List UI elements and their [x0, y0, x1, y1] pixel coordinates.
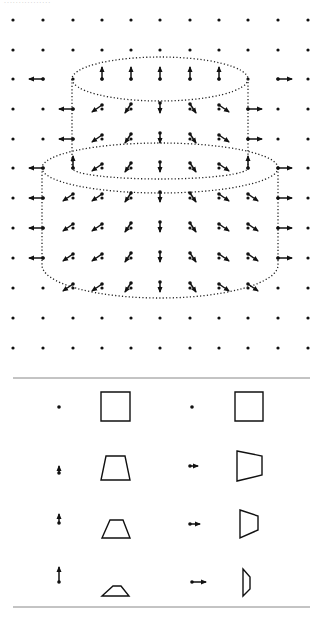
grid-dot	[129, 286, 132, 289]
vertical-deformed-square	[102, 520, 130, 538]
grid-dot	[100, 107, 103, 110]
grid-dot	[11, 196, 14, 199]
grid-dot	[306, 226, 309, 229]
cake-vector-field-figure: ................	[0, 0, 328, 627]
legend-panel	[13, 378, 310, 607]
figure-canvas	[0, 0, 328, 627]
grid-dot	[246, 316, 249, 319]
grid-dot	[306, 286, 309, 289]
grid-dot	[100, 48, 103, 51]
grid-dot	[306, 196, 309, 199]
grid-dot	[276, 286, 279, 289]
grid-dot	[129, 256, 132, 259]
grid-dot	[129, 346, 132, 349]
grid-dot	[158, 346, 161, 349]
grid-dot	[188, 316, 191, 319]
grid-dot	[129, 18, 132, 21]
grid-dot	[188, 166, 191, 169]
grid-dot	[188, 107, 191, 110]
grid-dot	[217, 196, 220, 199]
grid-dot	[217, 346, 220, 349]
grid-dot	[276, 18, 279, 21]
grid-dot	[129, 48, 132, 51]
grid-dot	[41, 107, 44, 110]
grid-dot	[217, 316, 220, 319]
grid-dot	[217, 18, 220, 21]
grid-dot	[306, 18, 309, 21]
grid-dot	[217, 48, 220, 51]
grid-dot	[246, 48, 249, 51]
grid-dot	[276, 346, 279, 349]
vertical-deformed-square	[102, 586, 129, 596]
grid-dot	[11, 137, 14, 140]
vertical-deformed-square	[101, 392, 130, 421]
grid-dot	[11, 286, 14, 289]
grid-dot	[276, 316, 279, 319]
grid-dot	[100, 137, 103, 140]
grid-dot	[188, 346, 191, 349]
grid-dot	[41, 346, 44, 349]
grid-dot	[217, 137, 220, 140]
grid-dot	[276, 48, 279, 51]
grid-dot	[188, 256, 191, 259]
vertical-strain-arrow-base-dot	[57, 405, 61, 409]
grid-dot	[41, 137, 44, 140]
grid-dot	[11, 166, 14, 169]
grid-dot	[188, 286, 191, 289]
grid-dot	[41, 286, 44, 289]
vector-arrows	[29, 67, 292, 292]
grid-dot	[217, 286, 220, 289]
grid-dot	[188, 137, 191, 140]
legend-row-3	[57, 510, 258, 538]
horizontal-deformed-square	[243, 569, 250, 596]
grid-dot	[129, 196, 132, 199]
grid-dot	[217, 107, 220, 110]
grid-dot	[71, 256, 74, 259]
grid-dot	[100, 196, 103, 199]
grid-dot	[129, 137, 132, 140]
grid-dot	[129, 316, 132, 319]
grid-dot	[11, 256, 14, 259]
grid-dot	[41, 316, 44, 319]
horizontal-deformed-square	[237, 451, 262, 481]
grid-dot	[188, 226, 191, 229]
grid-dot	[158, 316, 161, 319]
grid-dot	[306, 137, 309, 140]
grid-dot	[306, 256, 309, 259]
grid-dot	[129, 166, 132, 169]
horizontal-deformed-square	[240, 510, 258, 538]
grid-dot	[11, 346, 14, 349]
legend-row-1	[57, 392, 263, 421]
grid-dot	[71, 346, 74, 349]
grid-dot	[246, 196, 249, 199]
legend-row-2	[57, 451, 262, 481]
grid-dot	[41, 48, 44, 51]
grid-dot	[11, 107, 14, 110]
grid-dot	[306, 77, 309, 80]
grid-dot	[188, 196, 191, 199]
grid-dot	[11, 48, 14, 51]
grid-dot	[217, 166, 220, 169]
grid-dot	[71, 226, 74, 229]
grid-dot	[41, 18, 44, 21]
grid-dot	[100, 226, 103, 229]
grid-dot	[306, 316, 309, 319]
grid-dot	[100, 286, 103, 289]
grid-dot	[100, 166, 103, 169]
grid-dot	[100, 18, 103, 21]
grid-dot	[246, 18, 249, 21]
horizontal-deformed-square	[235, 392, 263, 421]
grid-dot	[246, 256, 249, 259]
grid-dot	[129, 226, 132, 229]
grid-dot	[71, 316, 74, 319]
grid-dot	[217, 256, 220, 259]
grid-dot	[11, 18, 14, 21]
grid-dot	[306, 48, 309, 51]
grid-dot	[158, 48, 161, 51]
grid-dot	[306, 346, 309, 349]
grid-dot	[276, 107, 279, 110]
grid-dot	[246, 346, 249, 349]
bottom-tier-body	[42, 168, 278, 298]
legend-row-4	[57, 567, 250, 596]
grid-dot	[276, 137, 279, 140]
